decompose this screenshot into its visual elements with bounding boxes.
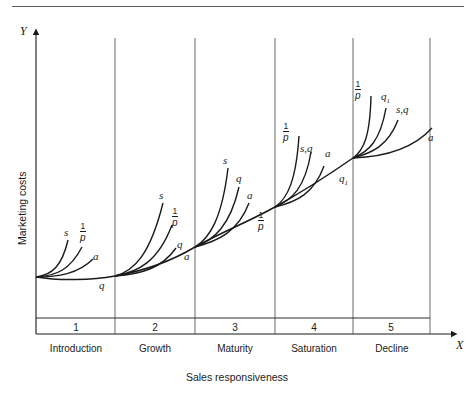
branch-s-stage-1 xyxy=(36,240,68,277)
stage-number-2: 2 xyxy=(135,322,175,333)
label-1p-stage-5: 1 p xyxy=(355,80,361,101)
stage-name-introduction: Introduction xyxy=(31,343,121,354)
fraction-denominator: p xyxy=(172,218,178,228)
stage-name-decline: Decline xyxy=(347,343,437,354)
label-1p-junction-3: 1 p xyxy=(258,211,264,232)
fraction-denominator: p xyxy=(355,91,361,101)
fraction-numerator: 1 xyxy=(258,211,264,220)
label-s-stage-3: s xyxy=(223,154,227,166)
stage-name-saturation: Saturation xyxy=(269,343,359,354)
stage-number-4: 4 xyxy=(294,322,334,333)
stage-name-maturity: Maturity xyxy=(190,343,280,354)
stage-number-5: 5 xyxy=(371,322,411,333)
label-q1-stage-5: q1 xyxy=(381,90,390,105)
fraction-numerator: 1 xyxy=(283,122,289,131)
label-sq-stage-4: s,q xyxy=(300,142,313,154)
stage-name-growth: Growth xyxy=(110,343,200,354)
label-q-subscript: 1 xyxy=(345,179,349,187)
fraction-numerator: 1 xyxy=(172,207,178,216)
fraction-denominator: p xyxy=(258,222,264,232)
label-1p-stage-1: 1 p xyxy=(80,222,86,243)
stage-5-branches xyxy=(353,96,432,158)
label-sq-stage-5: s,q xyxy=(396,103,409,115)
label-q1-junction-4: q1 xyxy=(339,172,348,187)
label-q-stage-3: q xyxy=(236,172,242,184)
label-s-stage-1: s xyxy=(64,226,68,238)
label-q-stage-2: q xyxy=(177,238,183,250)
x-axis-title: Sales responsiveness xyxy=(0,371,474,383)
y-axis-title: Marketing costs xyxy=(16,171,28,245)
fraction-denominator: p xyxy=(80,233,86,243)
stage-2-branches xyxy=(115,203,176,276)
fraction-numerator: 1 xyxy=(355,80,361,89)
label-1p-stage-4: 1 p xyxy=(283,122,289,143)
label-a-stage-3: a xyxy=(247,189,253,201)
label-s-stage-2: s xyxy=(159,189,163,201)
label-q-subscript: 1 xyxy=(387,97,391,105)
label-a-junction-2: a xyxy=(184,250,190,262)
label-a-stage-4: a xyxy=(325,147,331,159)
label-a-stage-5: a xyxy=(428,131,434,143)
stage-1-branches xyxy=(36,240,93,277)
branch-1p-stage-4 xyxy=(275,136,299,207)
chart-canvas xyxy=(0,0,474,397)
label-1p-stage-2: 1 p xyxy=(172,207,178,228)
label-q-junction-1: q xyxy=(99,279,105,291)
fraction-numerator: 1 xyxy=(80,222,86,231)
product-life-cycle-chart: Y X Marketing costs Sales responsiveness… xyxy=(0,0,474,397)
branch-1p-stage-2 xyxy=(115,225,172,276)
stage-number-3: 3 xyxy=(215,322,255,333)
y-axis-letter: Y xyxy=(20,24,27,39)
fraction-denominator: p xyxy=(283,133,289,143)
x-axis-letter: X xyxy=(456,338,463,353)
stage-number-1: 1 xyxy=(56,322,96,333)
stage-dividers xyxy=(115,38,430,334)
label-a-stage-1: a xyxy=(93,250,99,262)
